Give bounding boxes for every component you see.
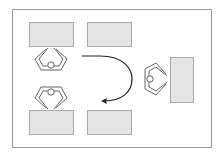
head-icon: [48, 89, 54, 95]
table-top-right: [88, 23, 132, 47]
head-icon: [147, 76, 153, 82]
table-bottom-left: [30, 111, 74, 135]
table-top-left: [30, 23, 74, 47]
table-bottom-right: [88, 111, 132, 135]
room-diagram: [0, 0, 220, 158]
table-right: [171, 58, 194, 103]
head-icon: [48, 62, 54, 68]
